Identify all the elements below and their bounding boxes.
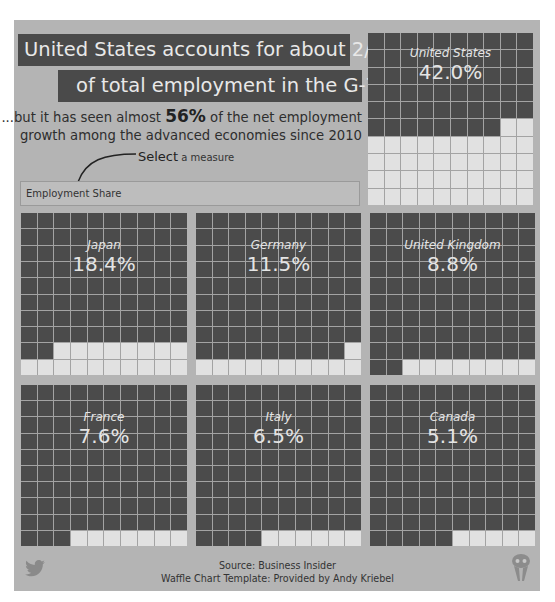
- waffle-cell-empty: [296, 385, 312, 400]
- waffle-cell-empty: [420, 278, 436, 293]
- waffle-cell-empty: [387, 229, 403, 244]
- waffle-cell-empty: [484, 119, 500, 135]
- waffle-cell-empty: [519, 434, 535, 449]
- waffle-cell-empty: [436, 434, 452, 449]
- waffle-cell-empty: [420, 434, 436, 449]
- waffle-cell-empty: [279, 229, 295, 244]
- waffle-united-states[interactable]: United States42.0%: [368, 33, 533, 205]
- waffle-cell-empty: [279, 262, 295, 277]
- waffle-cell-empty: [387, 466, 403, 481]
- waffle-cell-filled: [453, 360, 469, 375]
- waffle-cell-empty: [246, 466, 262, 481]
- waffle-cell-empty: [213, 295, 229, 310]
- waffle-cell-empty: [453, 229, 469, 244]
- waffle-cell-empty: [519, 295, 535, 310]
- select-label-bold: Select: [138, 149, 178, 164]
- waffle-cell-filled: [470, 360, 486, 375]
- waffle-cell-filled: [88, 343, 104, 358]
- waffle-cell-empty: [420, 515, 436, 530]
- waffle-cell-empty: [403, 515, 419, 530]
- waffle-cell-empty: [196, 434, 212, 449]
- author-logo-icon[interactable]: [510, 553, 532, 583]
- waffle-cell-empty: [279, 385, 295, 400]
- waffle-cell-empty: [345, 213, 361, 228]
- waffle-cell-empty: [436, 515, 452, 530]
- waffle-cell-empty: [420, 311, 436, 326]
- waffle-cell-empty: [345, 295, 361, 310]
- waffle-cell-empty: [21, 213, 37, 228]
- waffle-cell-empty: [387, 385, 403, 400]
- waffle-cell-empty: [519, 417, 535, 432]
- waffle-cell-empty: [54, 311, 70, 326]
- waffle-cell-empty: [262, 466, 278, 481]
- waffle-cell-empty: [370, 278, 386, 293]
- waffle-cell-empty: [138, 385, 154, 400]
- waffle-cell-empty: [453, 401, 469, 416]
- pointer-curve-icon: [74, 152, 144, 184]
- waffle-cell-filled: [262, 531, 278, 546]
- waffle-cell-empty: [519, 327, 535, 342]
- waffle-cell-empty: [71, 401, 87, 416]
- waffle-cell-empty: [329, 434, 345, 449]
- waffle-cell-empty: [519, 262, 535, 277]
- waffle-cell-empty: [104, 498, 120, 513]
- waffle-cell-empty: [246, 229, 262, 244]
- title-line-2: of total employment in the G-7...: [58, 70, 362, 102]
- waffle-cell-empty: [470, 450, 486, 465]
- waffle-cell-empty: [486, 385, 502, 400]
- waffle-germany[interactable]: Germany11.5%: [196, 213, 361, 375]
- waffle-cell-empty: [387, 213, 403, 228]
- waffle-cell-empty: [403, 482, 419, 497]
- waffle-canada[interactable]: Canada5.1%: [370, 385, 535, 546]
- waffle-cell-empty: [155, 311, 171, 326]
- waffle-cell-empty: [171, 295, 187, 310]
- waffle-cell-empty: [370, 434, 386, 449]
- waffle-cell-empty: [88, 229, 104, 244]
- waffle-cell-empty: [71, 229, 87, 244]
- waffle-united-kingdom[interactable]: United Kingdom8.8%: [370, 213, 535, 375]
- waffle-cell-empty: [138, 327, 154, 342]
- waffle-cell-empty: [71, 246, 87, 261]
- waffle-france[interactable]: France7.6%: [21, 385, 187, 546]
- waffle-cell-filled: [368, 171, 384, 187]
- waffle-cell-empty: [345, 515, 361, 530]
- waffle-cell-empty: [370, 450, 386, 465]
- waffle-cell-filled: [171, 531, 187, 546]
- waffle-cell-empty: [486, 417, 502, 432]
- waffle-cell-empty: [296, 343, 312, 358]
- waffle-cell-empty: [486, 262, 502, 277]
- waffle-cell-empty: [104, 246, 120, 261]
- waffle-italy[interactable]: Italy6.5%: [196, 385, 361, 546]
- waffle-japan[interactable]: Japan18.4%: [21, 213, 187, 375]
- waffle-cell-empty: [229, 482, 245, 497]
- waffle-cell-empty: [453, 466, 469, 481]
- waffle-cell-empty: [138, 434, 154, 449]
- waffle-cell-empty: [213, 531, 229, 546]
- waffle-cell-empty: [470, 213, 486, 228]
- waffle-cell-empty: [312, 213, 328, 228]
- waffle-cell-filled: [401, 189, 417, 205]
- waffle-cell-filled: [155, 360, 171, 375]
- subtitle-pre: ...but it has seen almost: [1, 110, 165, 125]
- waffle-cell-empty: [436, 213, 452, 228]
- waffle-cell-empty: [155, 515, 171, 530]
- waffle-cell-empty: [370, 417, 386, 432]
- waffle-cell-empty: [213, 343, 229, 358]
- waffle-cell-empty: [296, 482, 312, 497]
- waffle-cell-empty: [71, 417, 87, 432]
- waffle-cell-filled: [436, 360, 452, 375]
- waffle-cell-empty: [434, 102, 450, 118]
- waffle-cell-empty: [121, 311, 137, 326]
- waffle-cell-empty: [486, 213, 502, 228]
- waffle-cell-empty: [329, 401, 345, 416]
- waffle-cell-empty: [312, 385, 328, 400]
- waffle-cell-empty: [312, 450, 328, 465]
- waffle-cell-empty: [470, 343, 486, 358]
- waffle-cell-empty: [88, 515, 104, 530]
- waffle-cell-empty: [196, 213, 212, 228]
- waffle-cell-empty: [501, 50, 517, 66]
- waffle-cell-empty: [138, 417, 154, 432]
- measure-dropdown[interactable]: Employment Share: [20, 181, 360, 206]
- waffle-cell-filled: [71, 343, 87, 358]
- waffle-cell-empty: [370, 311, 386, 326]
